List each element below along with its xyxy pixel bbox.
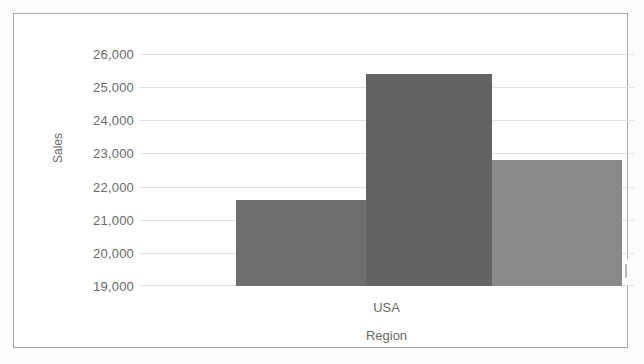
y-axis-tick-labels: 26,000 25,000 24,000 23,000 22,000 21,00… (52, 54, 134, 286)
x-axis-title: Region (139, 328, 634, 343)
y-tick-label: 24,000 (54, 113, 134, 128)
y-tick-label: 23,000 (54, 146, 134, 161)
plot-area (139, 54, 634, 286)
y-tick-label: 22,000 (54, 179, 134, 194)
chart-page: Sales 26,000 25,000 24,000 23,000 22,000… (0, 0, 644, 364)
y-tick-label: 21,000 (54, 212, 134, 227)
x-axis-category-label: USA (139, 300, 634, 315)
y-tick-label: 19,000 (54, 279, 134, 294)
y-tick-label: 20,000 (54, 245, 134, 260)
bar[interactable] (236, 200, 366, 286)
y-tick-label: 25,000 (54, 80, 134, 95)
gridline (139, 54, 634, 55)
scan-artifact (622, 259, 631, 285)
bar[interactable] (492, 160, 622, 286)
chart-frame: Sales 26,000 25,000 24,000 23,000 22,000… (13, 13, 628, 348)
bar[interactable] (366, 74, 492, 286)
y-tick-label: 26,000 (54, 47, 134, 62)
